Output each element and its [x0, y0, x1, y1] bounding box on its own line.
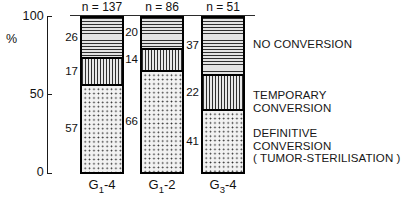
bar-column-g3-4: n = 51 37 22 41 G3-4 — [201, 16, 245, 174]
stacked-bar: 20 14 66 — [140, 16, 184, 174]
segment-no-conversion: 20 — [142, 18, 182, 50]
sample-size-label: n = 86 — [130, 1, 194, 16]
x-axis-label-g1-4: G1-4 — [68, 178, 136, 191]
segment-value: 17 — [65, 66, 78, 78]
segment-value: 41 — [186, 136, 199, 148]
segment-temporary-conversion: 17 — [82, 59, 122, 86]
legend-entry-temporary-conversion: TEMPORARY CONVERSION — [253, 89, 331, 114]
stacked-bar: 26 17 57 — [80, 16, 124, 174]
legend-entry-definitive-conversion: DEFINITIVE CONVERSION ( TUMOR-STERILISAT… — [253, 127, 401, 165]
x-axis-label-g3-4: G3-4 — [189, 178, 257, 191]
legend-text: DEFINITIVE — [253, 127, 401, 140]
legend-text: CONVERSION — [253, 140, 401, 153]
x-label-rest: -4 — [104, 177, 116, 192]
segment-no-conversion: 37 — [203, 18, 243, 76]
segment-value: 57 — [65, 123, 78, 135]
legend-entry-no-conversion: NO CONVERSION — [253, 38, 352, 51]
bar-column-g1-4: n = 137 26 17 57 G1-4 — [80, 16, 124, 174]
x-label-rest: -4 — [225, 177, 237, 192]
segment-value: 66 — [125, 116, 138, 128]
legend-text: TEMPORARY — [253, 89, 331, 102]
segment-value: 20 — [125, 27, 138, 39]
segment-value: 14 — [125, 54, 138, 66]
segment-value: 26 — [65, 32, 78, 44]
segment-value: 22 — [186, 87, 199, 99]
bar-column-g1-2: n = 86 20 14 66 G1-2 — [140, 16, 184, 174]
segment-definitive-conversion: 57 — [82, 86, 122, 172]
x-axis-label-g1-2: G1-2 — [128, 178, 196, 191]
segment-definitive-conversion: 41 — [203, 111, 243, 172]
segment-no-conversion: 26 — [82, 18, 122, 59]
x-label-base: G — [89, 177, 99, 192]
segment-value: 37 — [186, 40, 199, 52]
segment-temporary-conversion: 14 — [142, 50, 182, 72]
segment-temporary-conversion: 22 — [203, 76, 243, 111]
sample-size-label: n = 137 — [70, 1, 134, 16]
stacked-bar: 37 22 41 — [201, 16, 245, 174]
x-label-rest: -2 — [164, 177, 176, 192]
sample-size-label: n = 51 — [191, 1, 255, 16]
legend-text: CONVERSION — [253, 102, 331, 115]
legend-text: NO CONVERSION — [253, 38, 352, 51]
x-label-base: G — [210, 177, 220, 192]
legend: NO CONVERSION TEMPORARY CONVERSION DEFIN… — [253, 0, 380, 200]
segment-definitive-conversion: 66 — [142, 72, 182, 172]
legend-text: ( TUMOR-STERILISATION ) — [253, 152, 401, 165]
x-label-base: G — [149, 177, 159, 192]
